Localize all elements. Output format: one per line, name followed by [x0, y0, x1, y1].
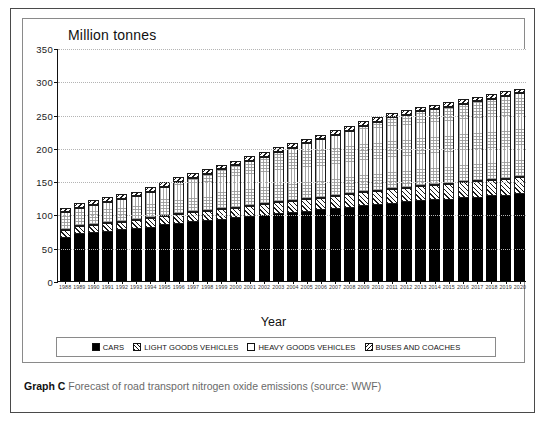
bar-2000[interactable]	[230, 161, 241, 281]
x-axis-tick-mark	[79, 281, 80, 284]
bar-2004[interactable]	[287, 143, 298, 281]
bar-2015[interactable]	[443, 102, 454, 281]
bar-segment-cars	[159, 225, 170, 281]
x-axis-tick-label: 2017	[471, 284, 483, 290]
legend-label: LIGHT GOODS VEHICLES	[144, 343, 238, 352]
bar-2020[interactable]	[514, 89, 525, 281]
bar-segment-hgv	[344, 131, 355, 195]
bar-2009[interactable]	[358, 121, 369, 281]
bar-1994[interactable]	[145, 187, 156, 281]
x-axis-tick-label: 1991	[102, 284, 114, 290]
bar-2001[interactable]	[244, 156, 255, 281]
legend-item-cars[interactable]: CARS	[92, 343, 125, 352]
bar-2005[interactable]	[301, 139, 312, 281]
bar-segment-hgv	[159, 187, 170, 216]
x-axis-tick-mark	[65, 281, 66, 284]
plot-area: 0501001502002503003501988198919901991199…	[57, 49, 526, 282]
bar-1992[interactable]	[116, 194, 127, 281]
bar-2011[interactable]	[386, 113, 397, 281]
bar-segment-lgv	[102, 223, 113, 232]
bar-1990[interactable]	[88, 200, 99, 281]
bar-2014[interactable]	[429, 105, 440, 281]
bar-segment-hgv	[429, 109, 440, 185]
x-axis-tick-mark	[136, 281, 137, 284]
bar-segment-lgv	[301, 199, 312, 212]
gridline	[58, 82, 526, 83]
bar-segment-hgv	[401, 115, 412, 188]
bar-2012[interactable]	[401, 110, 412, 281]
bar-segment-lgv	[74, 226, 85, 234]
bar-1993[interactable]	[131, 192, 142, 281]
y-axis-tick-mark	[54, 82, 58, 83]
x-axis-tick-label: 2009	[357, 284, 369, 290]
bar-1998[interactable]	[202, 169, 213, 281]
y-axis-tick-label: 250	[36, 110, 53, 121]
bar-segment-hgv	[131, 196, 142, 220]
bar-2003[interactable]	[273, 147, 284, 281]
legend-item-heavy-goods-vehicles[interactable]: HEAVY GOODS VEHICLES	[247, 343, 355, 352]
bar-2017[interactable]	[472, 97, 483, 281]
bar-segment-cars	[173, 224, 184, 281]
graph-figure: Million tonnes 0501001502002503003501988…	[0, 0, 547, 421]
bar-segment-hgv	[74, 208, 85, 227]
bar-1995[interactable]	[159, 182, 170, 281]
bar-1988[interactable]	[60, 208, 71, 281]
y-axis-tick-mark	[54, 282, 58, 283]
x-axis-tick-mark	[420, 281, 421, 284]
bar-segment-cars	[74, 234, 85, 281]
bar-segment-lgv	[131, 220, 142, 229]
bar-segment-cars	[315, 210, 326, 281]
gridline	[58, 49, 526, 50]
x-axis-tick-mark	[435, 281, 436, 284]
bar-2007[interactable]	[330, 130, 341, 281]
bar-1996[interactable]	[173, 177, 184, 281]
bar-segment-cars	[415, 201, 426, 281]
x-axis-tick-mark	[449, 281, 450, 284]
bar-segment-cars	[486, 196, 497, 281]
bar-segment-cars	[472, 198, 483, 281]
x-axis-tick-label: 2011	[386, 284, 398, 290]
bar-segment-cars	[145, 228, 156, 281]
caption-text: Forecast of road transport nitrogen oxid…	[68, 380, 381, 392]
bar-segment-cars	[102, 232, 113, 281]
gridline	[58, 149, 526, 150]
legend-item-buses-and-coaches[interactable]: BUSES AND COACHES	[365, 343, 461, 352]
bar-segment-lgv	[273, 202, 284, 214]
y-axis-tick-mark	[54, 49, 58, 50]
legend-label: BUSES AND COACHES	[376, 343, 461, 352]
figure-caption: Graph C Forecast of road transport nitro…	[24, 380, 524, 392]
bar-2010[interactable]	[372, 117, 383, 281]
x-axis-tick-mark	[278, 281, 279, 284]
x-axis-tick-label: 2013	[414, 284, 426, 290]
x-axis-tick-mark	[520, 281, 521, 284]
x-axis-tick-mark	[236, 281, 237, 284]
bar-2019[interactable]	[500, 91, 511, 281]
bar-segment-cars	[202, 221, 213, 281]
bar-2013[interactable]	[415, 107, 426, 281]
bar-2002[interactable]	[259, 152, 270, 281]
bar-2016[interactable]	[458, 99, 469, 281]
bar-segment-lgv	[287, 201, 298, 213]
x-axis-tick-mark	[264, 281, 265, 284]
legend-swatch-heavy-goods-vehicles-icon	[247, 343, 255, 351]
x-axis-tick-label: 2015	[443, 284, 455, 290]
x-axis-tick-label: 2002	[258, 284, 270, 290]
x-axis-tick-label: 2000	[230, 284, 242, 290]
y-axis-tick-label: 350	[36, 44, 53, 55]
y-axis-tick-label: 300	[36, 77, 53, 88]
bar-1997[interactable]	[187, 173, 198, 281]
bar-1991[interactable]	[102, 197, 113, 281]
bar-segment-cars	[401, 202, 412, 281]
bar-segment-hgv	[301, 143, 312, 199]
bar-2018[interactable]	[486, 94, 497, 281]
bar-segment-cars	[344, 208, 355, 281]
x-axis-tick-label: 1994	[144, 284, 156, 290]
x-axis-tick-label: 2016	[457, 284, 469, 290]
bar-2006[interactable]	[315, 135, 326, 281]
y-axis-title: Million tonnes	[68, 27, 156, 43]
legend-item-light-goods-vehicles[interactable]: LIGHT GOODS VEHICLES	[133, 343, 238, 352]
x-axis-tick-label: 1988	[59, 284, 71, 290]
bar-segment-hgv	[244, 161, 255, 206]
x-axis-tick-mark	[392, 281, 393, 284]
x-axis-tick-label: 2004	[286, 284, 298, 290]
